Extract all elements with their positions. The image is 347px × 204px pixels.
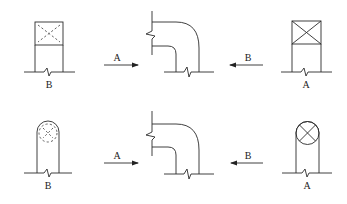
arrow-b: B xyxy=(231,150,263,163)
view-label-a: A xyxy=(303,180,311,191)
hidden-cross-icon xyxy=(38,25,60,42)
arrow-label-a: A xyxy=(113,52,121,63)
row-square: B A B xyxy=(24,11,332,90)
elbow-inner-curve xyxy=(152,147,176,174)
square-view-from-b: B xyxy=(24,22,75,90)
round-view-from-a: A xyxy=(282,122,332,192)
wall-break xyxy=(146,132,155,140)
row-round: B A B A xyxy=(24,111,332,191)
break-line xyxy=(24,68,75,76)
floor-break-line xyxy=(164,169,214,179)
arrow-label-b: B xyxy=(245,52,252,63)
view-label-b: B xyxy=(45,180,52,191)
view-label-a: A xyxy=(302,79,310,90)
wall-break xyxy=(146,31,155,39)
break-line xyxy=(282,169,332,177)
square-view-from-a: A xyxy=(281,21,332,90)
arrow-a: A xyxy=(104,150,138,163)
elbow-square xyxy=(146,11,214,77)
view-label-b: B xyxy=(46,79,53,90)
elbow-outer-curve xyxy=(152,124,199,174)
elbow-outer-curve xyxy=(152,22,199,72)
floor-break-line xyxy=(164,67,214,77)
arrow-b: B xyxy=(230,52,263,65)
hidden-cross-icon xyxy=(43,128,53,138)
break-line xyxy=(281,68,332,76)
elbow-round xyxy=(146,111,214,179)
visible-cross-icon xyxy=(299,125,315,141)
round-view-from-b: B xyxy=(24,121,72,191)
round-duct-outline xyxy=(296,122,319,173)
hidden-circle xyxy=(39,124,57,142)
arrow-a: A xyxy=(104,52,138,65)
break-line xyxy=(24,169,72,177)
visible-cross-icon xyxy=(292,21,321,44)
elbow-inner-curve xyxy=(152,46,176,72)
arrow-label-a: A xyxy=(113,150,121,161)
elbow-views-diagram: B A B xyxy=(0,0,347,204)
arrow-label-b: B xyxy=(245,150,252,161)
